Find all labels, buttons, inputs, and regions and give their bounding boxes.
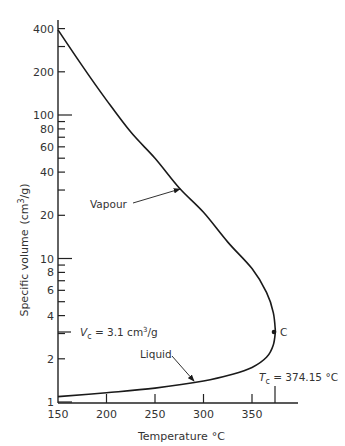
y-tick-label: 2	[47, 353, 54, 366]
vapour-arrow	[133, 189, 180, 203]
x-tick-label: 200	[96, 408, 117, 421]
y-tick-label: 80	[40, 123, 54, 136]
y-tick-label: 4	[47, 310, 54, 323]
y-tick-label: 200	[33, 66, 54, 79]
x-axis-tick-labels: 150200250300350	[48, 408, 263, 421]
y-tick-label: 40	[40, 166, 54, 179]
x-axis-title: Temperature°C	[137, 430, 225, 443]
x-tick-label: 250	[145, 408, 166, 421]
vapour-curve	[58, 30, 275, 332]
liquid-curve	[58, 332, 275, 397]
y-axis-title: Specific volume(cm3/g)	[17, 183, 31, 316]
y-tick-label: 60	[40, 141, 54, 154]
critical-point-marker	[272, 330, 277, 335]
y-tick-label: 6	[47, 284, 54, 297]
y-tick-label: 8	[47, 266, 54, 279]
y-axis-tick-labels: 124681020406080100200400	[33, 23, 54, 409]
y-tick-label: 100	[33, 109, 54, 122]
x-axis-ticks	[107, 394, 253, 403]
axes	[58, 20, 298, 403]
y-axis-ticks	[58, 29, 72, 402]
x-tick-label: 150	[48, 408, 69, 421]
y-tick-label: 10	[40, 253, 54, 266]
y-tick-label: 20	[40, 209, 54, 222]
x-tick-label: 300	[193, 408, 214, 421]
y-tick-label: 400	[33, 23, 54, 36]
liquid-arrow	[172, 356, 194, 381]
vapour-label: Vapour	[90, 198, 128, 210]
x-tick-label: 350	[242, 408, 263, 421]
critical-point-label: C	[280, 326, 287, 338]
vc-annotation: Vc = 3.1 cm3/g	[80, 326, 158, 341]
liquid-label: Liquid	[140, 348, 172, 360]
phase-diagram-chart: 124681020406080100200400 150200250300350…	[0, 0, 345, 446]
tc-annotation: Tc = 374.15 °C	[259, 371, 338, 386]
